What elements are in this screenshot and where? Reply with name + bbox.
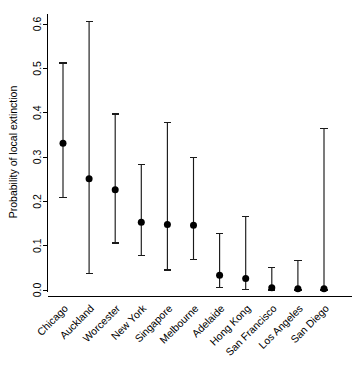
data-point-group bbox=[59, 63, 66, 197]
data-point-group bbox=[216, 233, 223, 287]
data-point-marker bbox=[112, 186, 119, 193]
y-tick-label: 0.1 bbox=[31, 238, 43, 253]
data-point-group bbox=[86, 22, 93, 274]
data-point-group bbox=[320, 128, 327, 292]
y-axis-label: Probability of local extinction bbox=[7, 86, 19, 219]
y-tick-label: 0.5 bbox=[31, 61, 43, 76]
data-point-group bbox=[164, 123, 171, 270]
y-axis-label-text: Probability of local extinction bbox=[7, 86, 19, 219]
data-point-marker bbox=[268, 284, 275, 291]
data-point-marker bbox=[86, 175, 93, 182]
data-point-group bbox=[190, 157, 197, 259]
data-point-group bbox=[268, 268, 275, 291]
data-point-group bbox=[138, 165, 145, 256]
y-tick-label: 0.2 bbox=[31, 194, 43, 209]
data-point-group bbox=[294, 261, 301, 292]
data-point-marker bbox=[294, 285, 301, 292]
x-tick-labels: ChicagoAucklandWorcesterNew YorkSingapor… bbox=[34, 302, 331, 358]
data-point-group bbox=[112, 114, 119, 243]
data-point-marker bbox=[242, 275, 249, 282]
data-point-marker bbox=[164, 221, 171, 228]
data-point-marker bbox=[190, 222, 197, 229]
data-series bbox=[59, 22, 327, 292]
chart-figure: Probability of local extinction 0.00.10.… bbox=[0, 0, 362, 374]
y-axis: 0.00.10.20.30.40.50.6 bbox=[31, 14, 47, 297]
y-tick-label: 0.6 bbox=[31, 17, 43, 32]
data-point-group bbox=[242, 216, 249, 289]
y-tick-label: 0.4 bbox=[31, 105, 43, 120]
scatter-plot-with-error-bars: Probability of local extinction 0.00.10.… bbox=[0, 0, 362, 374]
data-point-marker bbox=[321, 285, 328, 292]
y-tick-label: 0.0 bbox=[31, 283, 43, 298]
data-point-marker bbox=[216, 272, 223, 279]
y-tick-label: 0.3 bbox=[31, 150, 43, 165]
data-point-marker bbox=[138, 219, 145, 226]
data-point-marker bbox=[60, 140, 67, 147]
